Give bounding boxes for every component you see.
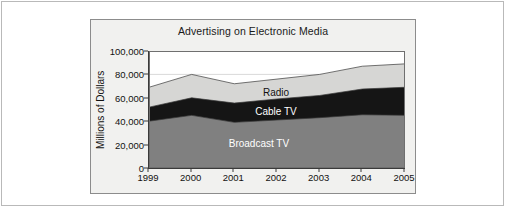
stacked-area-chart — [149, 51, 405, 168]
x-tick-mark — [190, 168, 191, 172]
chart-title: Advertising on Electronic Media — [91, 25, 415, 37]
y-tick-label: 40,000 — [96, 116, 144, 127]
plot-area — [148, 51, 405, 169]
figure-card: Advertising on Electronic Media Millions… — [1, 1, 504, 206]
x-tick-mark — [276, 168, 277, 172]
x-tick-label: 2002 — [265, 172, 286, 183]
x-tick-label: 2005 — [393, 172, 414, 183]
area-series-broadcast-tv — [149, 115, 405, 168]
y-tick-label: 20,000 — [96, 139, 144, 150]
y-axis-ticks: 020,00040,00060,00080,000100,000 — [91, 51, 144, 168]
x-tick-label: 2001 — [223, 172, 244, 183]
x-tick-mark — [361, 168, 362, 172]
y-tick-label: 80,000 — [96, 69, 144, 80]
x-tick-mark — [233, 168, 234, 172]
x-tick-label: 2003 — [308, 172, 329, 183]
x-tick-label: 1999 — [137, 172, 158, 183]
x-tick-label: 2004 — [351, 172, 372, 183]
chart-panel: Advertising on Electronic Media Millions… — [90, 19, 416, 194]
y-tick-label: 60,000 — [96, 92, 144, 103]
area-series-group — [149, 64, 405, 168]
x-tick-label: 2000 — [180, 172, 201, 183]
x-tick-mark — [318, 168, 319, 172]
x-tick-mark — [404, 168, 405, 172]
x-tick-mark — [148, 168, 149, 172]
y-tick-label: 100,000 — [96, 46, 144, 57]
